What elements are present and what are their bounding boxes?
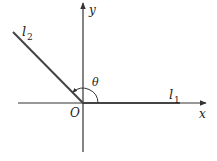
x-axis-label: x: [199, 107, 206, 121]
svg-text:1: 1: [174, 95, 180, 105]
coordinate-diagram: y x O θ l 2 l 1: [0, 0, 217, 161]
svg-text:l: l: [169, 87, 173, 102]
origin-label: O: [70, 106, 80, 120]
svg-text:2: 2: [27, 32, 33, 42]
line-l2-label: l 2: [22, 24, 33, 42]
line-l2: [13, 32, 83, 103]
svg-text:l: l: [22, 24, 26, 39]
angle-label: θ: [92, 76, 99, 89]
y-axis-label: y: [88, 3, 96, 17]
